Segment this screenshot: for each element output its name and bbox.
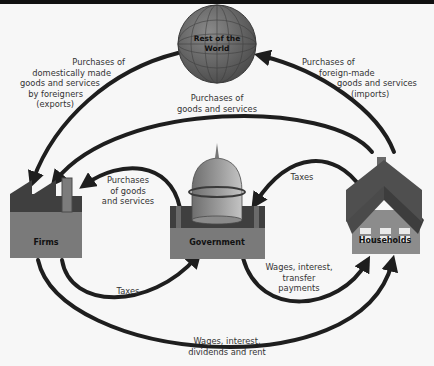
government-label: Government <box>182 238 252 247</box>
rest-of-world-label-line2: World <box>205 44 230 53</box>
government-purchases-line-1: Purchases <box>98 175 158 186</box>
factor-payments-line-1: Wages, interest, <box>177 336 277 347</box>
exports-line-2: domestically made <box>20 68 111 79</box>
households-label: Households <box>350 236 420 245</box>
exports-line-3: goods and services <box>20 78 93 89</box>
imports-line-4: (imports) <box>351 89 430 100</box>
circular-flow-diagram: Rest of the World Firms Government House… <box>0 0 434 366</box>
government-purchases-line-3: and services <box>98 196 158 207</box>
imports-line-2: foreign-made <box>319 68 430 79</box>
exports-line-4: by foreigners <box>20 89 83 100</box>
imports-line-3: goods and services <box>337 78 430 89</box>
household-purchases-flow-label: Purchases of goods and services <box>167 93 267 114</box>
rest-of-world-label: Rest of the World <box>187 34 247 54</box>
factor-payments-flow-label: Wages, interest, dividends and rent <box>177 336 277 357</box>
exports-line-1: Purchases of <box>20 57 125 68</box>
household-taxes-flow-label: Taxes <box>282 172 322 183</box>
household-purchases-line-2: goods and services <box>167 104 267 115</box>
transfers-line-2: transfer <box>264 273 334 284</box>
rest-of-world-label-line1: Rest of the <box>194 34 241 43</box>
transfers-line-1: Wages, interest, <box>264 262 334 273</box>
exports-line-5: (exports) <box>20 99 74 110</box>
firms-label: Firms <box>26 238 66 247</box>
factor-payments-line-2: dividends and rent <box>177 347 277 358</box>
firm-taxes-line-1: Taxes <box>108 286 148 297</box>
transfers-line-3: payments <box>264 283 334 294</box>
firm-taxes-flow-label: Taxes <box>108 286 148 297</box>
diagram-graphics <box>0 0 434 366</box>
transfers-flow-label: Wages, interest, transfer payments <box>264 262 334 294</box>
imports-flow-label: Purchases of foreign-made goods and serv… <box>300 57 430 99</box>
government-purchases-line-2: of goods <box>98 186 158 197</box>
government-purchases-flow-label: Purchases of goods and services <box>98 175 158 207</box>
arrow-factor-payments <box>38 260 392 347</box>
household-purchases-line-1: Purchases of <box>167 93 267 104</box>
imports-line-1: Purchases of <box>302 57 430 68</box>
household-taxes-line-1: Taxes <box>282 172 322 183</box>
exports-flow-label: Purchases of domestically made goods and… <box>20 57 125 110</box>
